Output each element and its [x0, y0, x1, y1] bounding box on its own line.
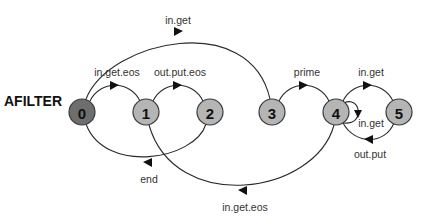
edge-label: out.put	[354, 148, 386, 160]
node-1: 1	[133, 99, 159, 125]
edge-4-to-5: in.get	[343, 66, 393, 101]
edge-label: in.get	[358, 66, 384, 78]
state-diagram: AFILTER in.get in.get.eos out.put.eos en…	[0, 0, 426, 224]
svg-text:5: 5	[395, 105, 403, 122]
node-3: 3	[259, 99, 285, 125]
edge-1-to-2: out.put.eos	[153, 66, 206, 101]
edge-label: out.put.eos	[154, 66, 206, 78]
arrow-icon	[110, 81, 119, 90]
edge-0-to-1: in.get.eos	[90, 66, 140, 101]
node-4: 4	[323, 99, 349, 125]
svg-text:2: 2	[206, 105, 214, 122]
arrow-icon	[174, 27, 183, 36]
svg-text:3: 3	[268, 105, 276, 122]
edge-label: prime	[294, 66, 320, 78]
node-2: 2	[197, 99, 223, 125]
edge-4-self-loop: in.get	[344, 102, 384, 129]
arrow-icon	[173, 81, 182, 90]
edge-label: in.get.eos	[222, 201, 268, 213]
node-5: 5	[386, 99, 412, 125]
arrow-icon	[363, 81, 372, 90]
edge-2-to-0: end	[86, 124, 206, 185]
arrow-icon	[238, 186, 247, 195]
svg-text:0: 0	[78, 105, 86, 122]
arrow-icon	[143, 158, 152, 167]
edge-label: in.get	[358, 117, 384, 129]
edge-3-to-4: prime	[279, 66, 329, 101]
node-0: 0	[69, 99, 95, 125]
edge-4-to-1: in.get.eos	[149, 125, 334, 213]
diagram-title: AFILTER	[4, 93, 62, 109]
svg-text:1: 1	[142, 105, 150, 122]
edge-label: in.get	[165, 14, 191, 26]
edge-label: in.get.eos	[94, 66, 140, 78]
edge-label: end	[140, 173, 158, 185]
arrow-icon	[364, 135, 373, 144]
svg-text:4: 4	[332, 105, 341, 122]
arrow-icon	[299, 81, 308, 90]
